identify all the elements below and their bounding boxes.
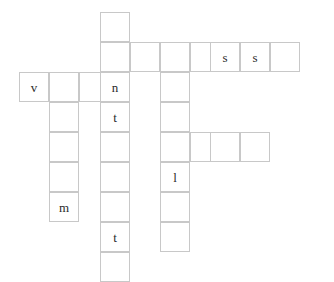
cell-r1c3[interactable] bbox=[100, 42, 130, 72]
cell-r6c5[interactable] bbox=[160, 192, 190, 222]
cell-r7c3[interactable]: t bbox=[100, 222, 130, 252]
cell-r1c5[interactable] bbox=[160, 42, 190, 72]
cell-r2c3[interactable]: n bbox=[100, 72, 130, 102]
cell-r4c7[interactable] bbox=[210, 132, 240, 162]
cell-r6c1[interactable]: m bbox=[49, 192, 79, 222]
cell-r5c5[interactable]: l bbox=[160, 162, 190, 192]
cell-r4c8[interactable] bbox=[240, 132, 270, 162]
cell-r4c3[interactable] bbox=[100, 132, 130, 162]
cell-r4c1[interactable] bbox=[49, 132, 79, 162]
cell-r3c3[interactable]: t bbox=[100, 102, 130, 132]
cell-r4c5[interactable] bbox=[160, 132, 190, 162]
cell-r3c1[interactable] bbox=[49, 102, 79, 132]
cell-r2c0[interactable]: v bbox=[19, 72, 49, 102]
crossword-grid: ssvntlmt bbox=[0, 0, 334, 282]
cell-r5c1[interactable] bbox=[49, 162, 79, 192]
cell-r5c3[interactable] bbox=[100, 162, 130, 192]
cell-r3c5[interactable] bbox=[160, 102, 190, 132]
cell-r1c4[interactable] bbox=[130, 42, 160, 72]
cell-r1c9[interactable] bbox=[270, 42, 300, 72]
cell-r1c7[interactable]: s bbox=[210, 42, 240, 72]
cell-r7c5[interactable] bbox=[160, 222, 190, 252]
cell-r0c3[interactable] bbox=[100, 12, 130, 42]
cell-r1c8[interactable]: s bbox=[240, 42, 270, 72]
cell-r2c1[interactable] bbox=[49, 72, 79, 102]
cell-r6c3[interactable] bbox=[100, 192, 130, 222]
cell-r8c3[interactable] bbox=[100, 252, 130, 282]
cell-r2c5[interactable] bbox=[160, 72, 190, 102]
